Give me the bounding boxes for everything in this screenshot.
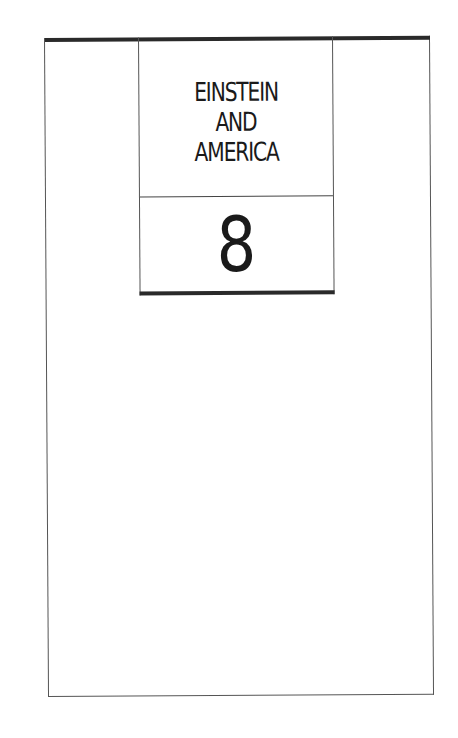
chapter-title-line-2: AND [215,106,256,136]
title-box-bottom-rule [140,290,335,295]
chapter-number-panel: 8 [140,197,334,291]
chapter-title-panel: EINSTEIN AND AMERICA [139,40,333,197]
chapter-number: 8 [217,206,257,282]
chapter-title-box: EINSTEIN AND AMERICA 8 [138,36,335,295]
chapter-title-line-1: EINSTEIN [194,76,278,107]
chapter-title-line-3: AMERICA [194,136,278,167]
page-frame: EINSTEIN AND AMERICA 8 [44,36,434,697]
